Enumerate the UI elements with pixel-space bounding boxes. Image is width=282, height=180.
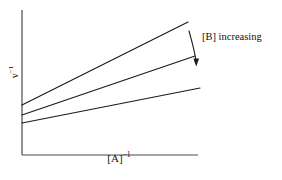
down-arrow-icon — [189, 31, 199, 67]
x-axis-label-exponent: −1 — [123, 150, 131, 159]
x-axis-label-base: [A] — [107, 152, 122, 164]
y-axis-label-base: v — [9, 73, 20, 78]
annotation-label: [B] increasing — [202, 30, 262, 43]
double-reciprocal-plot-figure: v−1 [A]−1 [B] increasing — [0, 0, 282, 180]
y-axis-label-exponent: −1 — [7, 66, 15, 73]
x-axis-label: [A]−1 — [84, 152, 154, 165]
y-axis-label: v−1 — [2, 58, 26, 86]
data-line-lowest-b — [22, 22, 188, 105]
